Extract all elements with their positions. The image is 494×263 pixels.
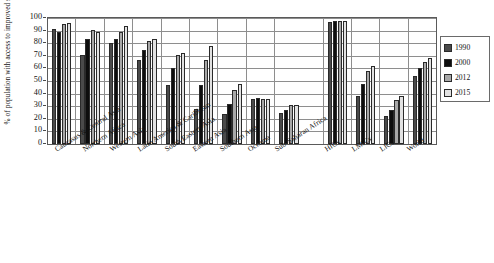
bar <box>361 84 365 144</box>
y-tick-mark <box>43 55 46 56</box>
legend-swatch-icon <box>444 74 452 82</box>
y-tick-mark <box>43 30 46 31</box>
legend: 1990200020122015 <box>440 36 490 102</box>
bar <box>62 24 66 144</box>
y-tick-label: 30 <box>16 101 42 109</box>
bar-series-container <box>48 18 436 144</box>
legend-item[interactable]: 1990 <box>444 40 489 55</box>
y-tick-mark <box>43 17 46 18</box>
legend-item[interactable]: 2012 <box>444 70 489 85</box>
bar <box>371 66 375 144</box>
y-tick-label: 80 <box>16 38 42 46</box>
y-tick-label: 0 <box>16 139 42 147</box>
bar-group <box>274 18 302 144</box>
y-tick-mark <box>43 93 46 94</box>
y-tick-mark <box>43 105 46 106</box>
bar <box>176 55 180 144</box>
bar <box>343 21 347 144</box>
bar-group <box>132 18 160 144</box>
y-tick-label: 90 <box>16 26 42 34</box>
legend-swatch-icon <box>444 89 452 97</box>
plot-area <box>47 17 437 145</box>
bar <box>423 62 427 144</box>
bar <box>394 100 398 144</box>
bar <box>413 76 417 144</box>
bar <box>52 29 56 144</box>
legend-label: 2012 <box>455 74 470 82</box>
y-tick-label: 10 <box>16 126 42 134</box>
bar-group <box>351 18 379 144</box>
legend-item[interactable]: 2000 <box>444 55 489 70</box>
chart-root: % of population with access to improved … <box>0 0 494 263</box>
y-tick-mark <box>43 80 46 81</box>
legend-swatch-icon <box>444 59 452 67</box>
bar-group <box>408 18 436 144</box>
y-tick-label: 20 <box>16 114 42 122</box>
y-tick-mark <box>43 143 46 144</box>
bar <box>333 21 337 144</box>
legend-label: 2015 <box>455 89 470 97</box>
bar-group <box>379 18 407 144</box>
bar <box>147 41 151 144</box>
legend-item[interactable]: 2015 <box>444 85 489 100</box>
y-tick-label: 60 <box>16 63 42 71</box>
bar-group <box>48 18 75 144</box>
bar <box>399 96 403 144</box>
bar <box>428 58 432 144</box>
y-tick-label: 100 <box>16 13 42 21</box>
y-axis-title: % of population with access to improved … <box>4 0 13 134</box>
bar <box>152 39 156 144</box>
y-tick-mark <box>43 42 46 43</box>
bar <box>181 53 185 144</box>
y-tick-mark <box>43 118 46 119</box>
bar <box>57 32 61 144</box>
y-tick-mark <box>43 67 46 68</box>
legend-label: 2000 <box>455 59 470 67</box>
bar-group <box>323 18 351 144</box>
bar <box>209 46 213 144</box>
y-tick-label: 50 <box>16 76 42 84</box>
bar <box>67 23 71 144</box>
bar <box>356 96 360 144</box>
y-tick-label: 40 <box>16 89 42 97</box>
y-tick-mark <box>43 130 46 131</box>
bar <box>328 22 332 144</box>
bar <box>418 68 422 144</box>
bar <box>338 21 342 144</box>
bar <box>251 99 255 144</box>
legend-label: 1990 <box>455 44 470 52</box>
y-tick-label: 70 <box>16 51 42 59</box>
legend-swatch-icon <box>444 44 452 52</box>
